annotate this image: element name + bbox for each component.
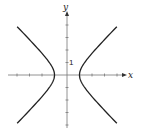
x-axis-label: x bbox=[128, 70, 133, 80]
hyperbola-chart: x y 1 bbox=[0, 0, 142, 132]
y-tick-label-1: 1 bbox=[69, 58, 74, 67]
y-axis-label: y bbox=[62, 2, 69, 12]
x-axis-arrow-icon bbox=[122, 73, 127, 77]
